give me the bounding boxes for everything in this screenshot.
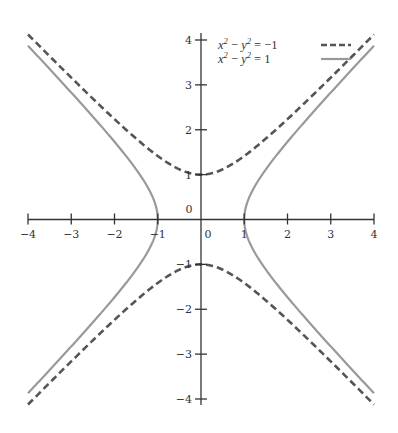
y-zero-label: 0 [186, 203, 193, 216]
y-tick-label: 3 [185, 79, 192, 92]
y-tick-label: −4 [176, 393, 192, 406]
x-zero-label: 0 [205, 228, 212, 241]
x-tick-label: 2 [284, 228, 291, 241]
y-tick-label: −2 [176, 303, 192, 316]
x-tick-label: −1 [150, 228, 166, 241]
x-tick-label: 4 [371, 228, 378, 241]
y-tick-label: 2 [185, 124, 192, 137]
legend: x2 − y2 = −1 x2 − y2 = 1 [217, 36, 351, 66]
x-tick-label: 1 [241, 228, 248, 241]
axes [28, 33, 374, 405]
x-tick-label: −3 [63, 228, 79, 241]
y-tick-label: 4 [185, 34, 192, 47]
hyperbola-chart: −4−3−2−11234−4−3−2−1123400 x2 − y2 = −1 … [0, 0, 398, 433]
x-tick-label: −4 [20, 228, 36, 241]
legend-label-solid: x2 − y2 = 1 [217, 50, 271, 66]
x-tick-label: 3 [327, 228, 334, 241]
x-tick-label: −2 [106, 228, 122, 241]
y-tick-label: 1 [185, 169, 192, 182]
y-tick-label: −3 [176, 348, 192, 361]
y-tick-label: −1 [176, 258, 192, 271]
